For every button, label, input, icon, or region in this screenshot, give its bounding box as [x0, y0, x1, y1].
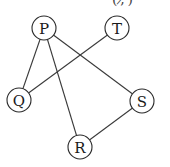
graph-diagram: ( , ̸) PTQSR	[0, 0, 170, 167]
cropped-header-text: ( , ̸)	[112, 0, 133, 7]
node-label: R	[74, 139, 86, 157]
node-label: T	[112, 20, 122, 38]
edge-p-s	[44, 28, 142, 101]
node-label: P	[39, 20, 49, 38]
edge-t-q	[19, 28, 117, 100]
node-q: Q	[7, 88, 31, 112]
edge-p-r	[44, 28, 80, 147]
node-r: R	[68, 135, 92, 159]
node-s: S	[130, 89, 154, 113]
node-p: P	[32, 16, 56, 40]
node-label: Q	[13, 92, 25, 110]
node-t: T	[105, 16, 129, 40]
node-label: S	[137, 93, 147, 111]
nodes-layer: PTQSR	[7, 16, 154, 159]
edges-layer	[19, 28, 142, 147]
